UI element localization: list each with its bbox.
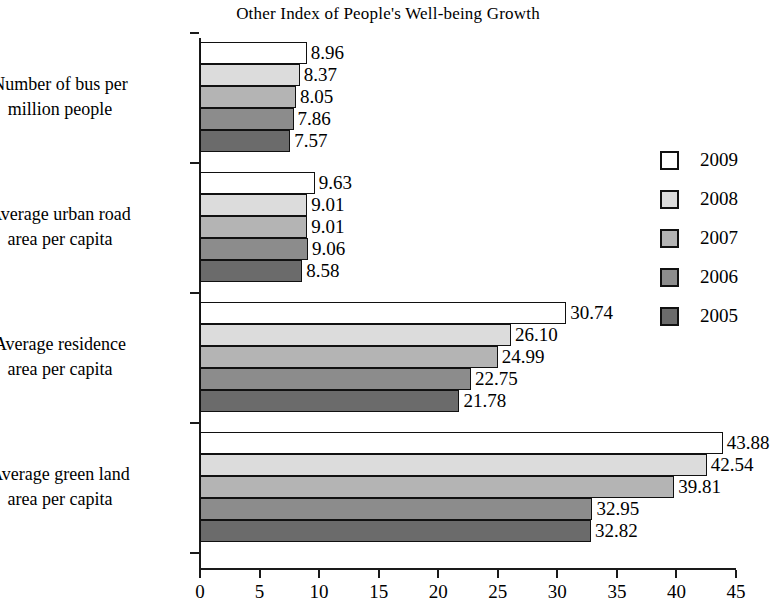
bar-2006-2 (200, 238, 308, 260)
category-axis-tick (190, 292, 199, 294)
bar-value-label: 8.96 (308, 42, 344, 64)
category-label-line: area per capita (0, 487, 185, 512)
bar-value-label: 42.54 (708, 454, 754, 476)
category-label-line: Average urban road (0, 202, 185, 227)
x-axis-tick (437, 570, 439, 578)
x-axis-tick (556, 570, 558, 578)
x-axis-tick (616, 570, 618, 578)
x-axis-tick (735, 570, 737, 578)
bar-value-label: 7.57 (291, 130, 327, 152)
x-axis-tick-label: 15 (359, 581, 399, 601)
bar-value-label: 24.99 (499, 346, 545, 368)
x-axis-tick-label: 40 (656, 581, 696, 601)
bar-2009-4 (200, 432, 723, 454)
x-axis-tick-label: 0 (180, 581, 220, 601)
bar-2008-3 (200, 324, 511, 346)
bar-2007-4 (200, 476, 674, 498)
x-axis-tick (259, 570, 261, 578)
bar-2007-1 (200, 86, 296, 108)
bar-2009-3 (200, 302, 566, 324)
category-label-line: Average green land (0, 462, 185, 487)
category-axis-tick (190, 422, 199, 424)
bar-value-label: 21.78 (460, 390, 506, 412)
category-axis-tick (190, 32, 199, 34)
bar-2005-3 (200, 390, 459, 412)
x-axis-tick (675, 570, 677, 578)
bar-2008-2 (200, 194, 307, 216)
bar-value-label: 22.75 (472, 368, 518, 390)
bar-value-label: 32.95 (593, 498, 639, 520)
category-label-line: area per capita (0, 227, 185, 252)
x-axis-tick-label: 10 (299, 581, 339, 601)
bar-value-label: 26.10 (512, 324, 558, 346)
category-label-line: Average residence (0, 332, 185, 357)
bar-value-label: 7.86 (295, 108, 331, 130)
x-axis-tick (378, 570, 380, 578)
bar-value-label: 9.01 (308, 194, 344, 216)
bar-value-label: 8.58 (303, 260, 339, 282)
legend-swatch-icon (660, 190, 679, 209)
category-axis-tick (190, 552, 199, 554)
bar-2007-2 (200, 216, 307, 238)
bar-value-label: 8.37 (301, 64, 337, 86)
x-axis-tick-label: 20 (418, 581, 458, 601)
bar-value-label: 8.05 (297, 86, 333, 108)
category-label-line: area per capita (0, 357, 185, 382)
legend-swatch-icon (660, 307, 679, 326)
x-axis-tick-label: 45 (716, 581, 756, 601)
x-axis-tick (318, 570, 320, 578)
bar-value-label: 9.01 (308, 216, 344, 238)
legend-swatch-icon (660, 229, 679, 248)
x-axis-tick-label: 30 (537, 581, 577, 601)
bar-value-label: 43.88 (724, 432, 770, 454)
category-label: Average urban roadarea per capita (0, 202, 185, 252)
legend-label: 2007 (700, 225, 738, 251)
category-label: Average green landarea per capita (0, 462, 185, 512)
bar-2006-3 (200, 368, 471, 390)
legend-swatch-icon (660, 268, 679, 287)
bar-value-label: 39.81 (675, 476, 721, 498)
bar-2006-4 (200, 498, 592, 520)
legend-label: 2008 (700, 186, 738, 212)
legend-swatch-icon (660, 151, 679, 170)
chart-title: Other Index of People's Well-being Growt… (0, 4, 776, 24)
bar-2008-4 (200, 454, 707, 476)
bar-2008-1 (200, 64, 300, 86)
bar-2005-1 (200, 130, 290, 152)
category-axis-tick (190, 162, 199, 164)
x-axis-tick-label: 35 (597, 581, 637, 601)
bar-2007-3 (200, 346, 498, 368)
bar-2009-2 (200, 172, 315, 194)
x-axis-tick-label: 25 (478, 581, 518, 601)
category-label: Average residencearea per capita (0, 332, 185, 382)
category-label-line: Number of bus per (0, 72, 185, 97)
category-label: Number of bus permillion people (0, 72, 185, 122)
category-label-line: million people (0, 97, 185, 122)
bar-value-label: 30.74 (567, 302, 613, 324)
chart-figure: Other Index of People's Well-being Growt… (0, 0, 776, 601)
bar-value-label: 9.63 (316, 172, 352, 194)
x-axis-tick (199, 570, 201, 578)
bar-value-label: 32.82 (592, 520, 638, 542)
bar-value-label: 9.06 (309, 238, 345, 260)
bar-2009-1 (200, 42, 307, 64)
bar-2006-1 (200, 108, 294, 130)
x-axis-tick (497, 570, 499, 578)
legend-label: 2009 (700, 147, 738, 173)
x-axis-tick-label: 5 (240, 581, 280, 601)
legend-label: 2005 (700, 303, 738, 329)
plot-area: 0510152025303540458.968.378.057.867.579.… (199, 38, 735, 568)
bar-2005-2 (200, 260, 302, 282)
legend-label: 2006 (700, 264, 738, 290)
x-axis-line (199, 568, 736, 570)
bar-2005-4 (200, 520, 591, 542)
